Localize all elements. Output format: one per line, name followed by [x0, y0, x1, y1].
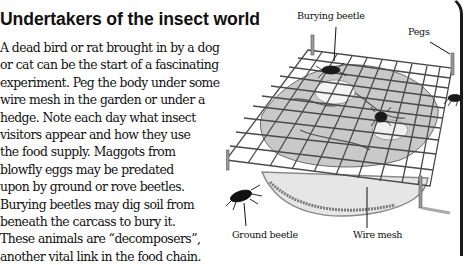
peg: [419, 176, 422, 208]
carcass-mesh-illustration: Burying beetle Pegs Ground beetle Wire m…: [226, 0, 462, 245]
label-ground-beetle: Ground beetle: [232, 229, 298, 240]
label-pegs: Pegs: [408, 26, 430, 37]
body-line: another vital link in the food chain.: [0, 248, 236, 265]
body-line: Burying beetles may dig soil from: [0, 196, 236, 213]
page-title: Undertakers of the insect world: [0, 9, 260, 30]
body-line: beneath the carcass to bury it.: [0, 213, 236, 230]
body-line: These animals are “decomposers”,: [0, 230, 236, 247]
body-line: experiment. Peg the body under some: [0, 74, 236, 91]
peg: [311, 35, 314, 55]
peg: [226, 150, 229, 170]
body-line: or cat can be the start of a fascinating: [0, 56, 236, 73]
body-line: A dead bird or rat brought in by a dog: [0, 39, 236, 56]
body-line: hedge. Note each day what insect: [0, 109, 236, 126]
body-line: upon by ground or rove beetles.: [0, 178, 236, 195]
body-line: the food supply. Maggots from: [0, 143, 236, 160]
body-line: wire mesh in the garden or under a: [0, 91, 236, 108]
body-paragraph: A dead bird or rat brought in by a dog o…: [0, 39, 236, 265]
body-line: blowfly eggs may be predated: [0, 161, 236, 178]
label-wire-mesh: Wire mesh: [353, 229, 402, 240]
peg: [451, 53, 454, 75]
body-line: visitors appear and how they use: [0, 126, 236, 143]
label-burying-beetle: Burying beetle: [297, 10, 365, 21]
